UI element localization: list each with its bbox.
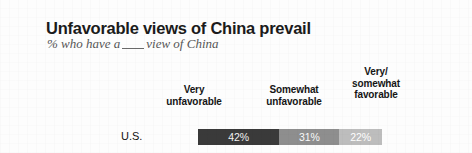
row-label-us: U.S. <box>121 130 142 142</box>
column-header-very-unfavorable: Very unfavorable <box>146 84 242 107</box>
column-header-line-2: unfavorable <box>146 96 242 108</box>
column-header-line-1: Somewhat <box>246 84 342 96</box>
subtitle-suffix: view of China <box>146 36 218 51</box>
stacked-bar-us: 42% 31% 22% <box>198 129 382 145</box>
column-header-line-3: favorable <box>330 89 422 101</box>
bar-segment-very-unfavorable: 42% <box>198 129 279 145</box>
chart-figure: Unfavorable views of China prevail % who… <box>0 0 472 153</box>
bar-segment-favorable: 22% <box>339 129 382 145</box>
subtitle-blank <box>122 38 144 49</box>
subtitle-prefix: % who have a <box>47 36 120 51</box>
column-header-line-1: Very <box>146 84 242 96</box>
column-header-somewhat-unfavorable: Somewhat unfavorable <box>246 84 342 107</box>
chart-subtitle: % who have aview of China <box>47 36 219 52</box>
column-header-line-2: unfavorable <box>246 96 342 108</box>
column-header-line-2: somewhat <box>330 78 422 90</box>
bar-segment-somewhat-unfavorable: 31% <box>279 129 339 145</box>
column-header-very-somewhat-favorable: Very/ somewhat favorable <box>330 66 422 101</box>
column-header-line-1: Very/ <box>330 66 422 78</box>
